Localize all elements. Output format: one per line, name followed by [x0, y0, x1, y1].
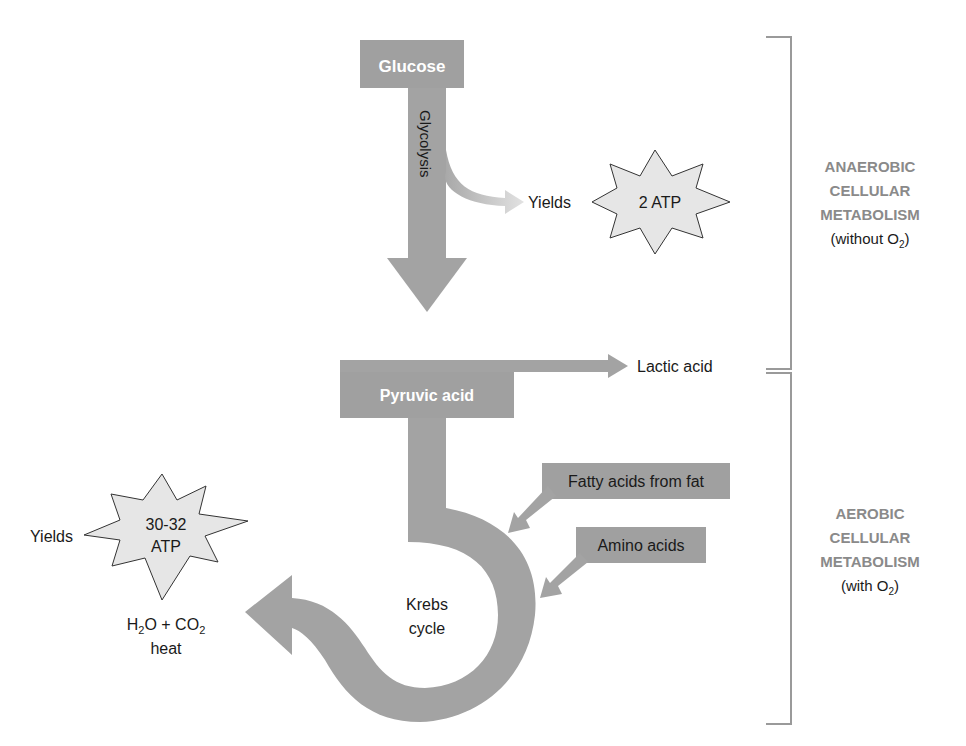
- atp-30-32-line1: 30-32: [146, 516, 187, 533]
- products-heat: heat: [150, 640, 182, 657]
- atp-30-32-starburst: 30-32 ATP: [84, 474, 248, 600]
- glycolysis-label: Glycolysis: [417, 110, 434, 178]
- svg-text:METABOLISM: METABOLISM: [820, 553, 920, 570]
- anaerobic-yield-arrow: [445, 150, 524, 214]
- aerobic-yields-label: Yields: [30, 528, 73, 545]
- krebs-label-line1: Krebs: [406, 596, 448, 613]
- svg-text:(with O2): (with O2): [841, 577, 899, 597]
- krebs-label-line2: cycle: [409, 620, 446, 637]
- svg-text:METABOLISM: METABOLISM: [820, 206, 920, 223]
- svg-text:ANAEROBIC: ANAEROBIC: [825, 158, 916, 175]
- svg-text:CELLULAR: CELLULAR: [830, 182, 911, 199]
- pyruvic-acid-node: Pyruvic acid: [340, 372, 514, 418]
- metabolism-diagram: Glucose Glycolysis Yields 2 ATP Lactic a…: [0, 0, 966, 746]
- anaerobic-phase-label: ANAEROBIC CELLULAR METABOLISM (without O…: [820, 158, 920, 250]
- amino-acids-input: Amino acids: [540, 527, 706, 598]
- anaerobic-bracket: [766, 37, 791, 369]
- products-water-co2: H2O + CO2: [127, 616, 206, 636]
- glycolysis-arrow: Glycolysis: [387, 88, 467, 312]
- fatty-acids-input: Fatty acids from fat: [508, 463, 730, 533]
- atp-2-label: 2 ATP: [639, 194, 681, 211]
- atp-30-32-line2: ATP: [151, 538, 181, 555]
- svg-text:AEROBIC: AEROBIC: [835, 505, 904, 522]
- glucose-label: Glucose: [378, 57, 445, 76]
- svg-text:(without O2): (without O2): [831, 230, 910, 250]
- krebs-cycle-arrow: [245, 418, 536, 722]
- anaerobic-yields-label: Yields: [528, 194, 571, 211]
- aerobic-bracket: [766, 373, 791, 724]
- aerobic-phase-label: AEROBIC CELLULAR METABOLISM (with O2): [820, 505, 920, 597]
- amino-acids-label: Amino acids: [597, 537, 684, 554]
- pyruvic-acid-label: Pyruvic acid: [380, 387, 474, 404]
- svg-text:CELLULAR: CELLULAR: [830, 529, 911, 546]
- lactic-acid-label: Lactic acid: [637, 358, 713, 375]
- atp-2-starburst: 2 ATP: [592, 150, 730, 254]
- glucose-node: Glucose: [360, 40, 464, 88]
- fatty-acids-label: Fatty acids from fat: [568, 473, 705, 490]
